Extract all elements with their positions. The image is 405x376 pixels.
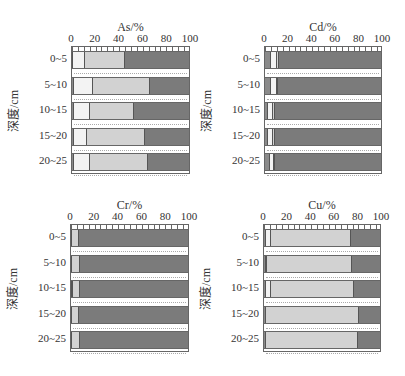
row-separator — [266, 353, 378, 354]
y-axis-label: 深度/cm — [4, 71, 22, 151]
stacked-bar-5~10 — [72, 77, 189, 95]
x-tick-label: 20 — [282, 32, 293, 44]
bar-segment — [278, 78, 381, 94]
plot-area — [70, 224, 189, 352]
bar-segment — [80, 256, 188, 272]
stacked-bar-5~10 — [264, 255, 380, 273]
bar-segment — [79, 230, 188, 246]
row-separator — [266, 277, 378, 278]
x-tick-label: 100 — [182, 32, 199, 44]
x-tick-label: 80 — [353, 32, 364, 44]
bar-segment — [125, 52, 189, 68]
stacked-bar-15~20 — [71, 306, 188, 324]
x-axis-tick-labels: 020406080100 — [264, 32, 382, 44]
stacked-bar-5~10 — [265, 77, 381, 95]
y-tick-label: 15~20 — [216, 129, 260, 141]
y-tick-label: 5~10 — [22, 256, 66, 268]
stacked-bar-10~15 — [72, 102, 189, 120]
bar-segment — [275, 103, 381, 119]
x-axis-tick-labels: 020406080100 — [70, 210, 189, 222]
row-separator — [267, 73, 379, 74]
bar-segment — [73, 52, 85, 68]
plot-area — [71, 46, 190, 174]
y-tick-label: 10~15 — [22, 281, 66, 293]
y-tick-label: 10~15 — [216, 103, 260, 115]
bar-segment — [80, 332, 188, 348]
row-separator — [267, 99, 379, 100]
y-tick-label: 15~20 — [215, 307, 259, 319]
bar-segment — [93, 78, 150, 94]
y-tick-label: 5~10 — [216, 78, 260, 90]
row-separator — [74, 124, 187, 125]
bar-segment — [279, 52, 381, 68]
plot-area — [264, 46, 382, 174]
stacked-bar-20~25 — [264, 331, 380, 349]
stacked-bar-20~25 — [71, 331, 188, 349]
bar-segment — [134, 103, 189, 119]
row-separator — [74, 99, 187, 100]
x-tick-label: 80 — [161, 32, 172, 44]
x-axis-tick-labels: 020406080100 — [263, 210, 381, 222]
y-tick-label: 0~5 — [23, 52, 67, 64]
row-separator — [73, 328, 186, 329]
y-tick-label: 5~10 — [215, 256, 259, 268]
x-tick-label: 20 — [88, 210, 99, 222]
bar-segment — [72, 332, 80, 348]
y-tick-label: 0~5 — [215, 230, 259, 242]
y-tick-label: 0~5 — [216, 52, 260, 64]
stacked-bar-10~15 — [71, 280, 188, 298]
row-separator — [73, 353, 186, 354]
bar-segment — [72, 230, 79, 246]
bar-segment — [74, 154, 89, 170]
bar-segment — [80, 281, 188, 297]
bar-segment — [354, 281, 380, 297]
y-tick-label: 10~15 — [23, 103, 67, 115]
bar-segment — [73, 281, 80, 297]
bar-segment — [271, 230, 351, 246]
x-tick-label: 100 — [373, 210, 390, 222]
bar-segment — [271, 281, 355, 297]
x-tick-label: 80 — [160, 210, 171, 222]
bar-segment — [359, 307, 380, 323]
row-separator — [266, 251, 378, 252]
plot-area — [263, 224, 381, 352]
row-separator — [73, 277, 186, 278]
row-separator — [73, 302, 186, 303]
stacked-bar-0~5 — [264, 229, 380, 247]
x-tick-label: 60 — [329, 32, 340, 44]
bar-segment — [266, 307, 359, 323]
y-tick-label: 15~20 — [23, 129, 67, 141]
y-axis-label: 深度/cm — [196, 249, 214, 329]
x-tick-label: 80 — [352, 210, 363, 222]
x-tick-label: 40 — [112, 210, 123, 222]
y-axis-label: 深度/cm — [3, 249, 21, 329]
stacked-bar-0~5 — [265, 51, 381, 69]
y-tick-label: 10~15 — [215, 281, 259, 293]
bar-segment — [85, 52, 125, 68]
row-separator — [74, 150, 187, 151]
bar-segment — [275, 154, 381, 170]
bar-segment — [90, 103, 134, 119]
bar-segment — [90, 154, 149, 170]
row-separator — [267, 150, 379, 151]
bar-segment — [352, 256, 380, 272]
bar-segment — [145, 129, 189, 145]
bar-segment — [74, 103, 89, 119]
x-axis-tick-labels: 020406080100 — [71, 32, 190, 44]
row-separator — [74, 175, 187, 176]
y-tick-label: 15~20 — [22, 307, 66, 319]
stacked-bar-0~5 — [71, 229, 188, 247]
row-separator — [74, 73, 187, 74]
x-tick-label: 100 — [181, 210, 198, 222]
x-tick-label: 60 — [137, 32, 148, 44]
x-tick-label: 60 — [136, 210, 147, 222]
row-separator — [266, 302, 378, 303]
x-tick-label: 0 — [261, 32, 267, 44]
x-tick-label: 100 — [374, 32, 391, 44]
bar-segment — [351, 230, 380, 246]
y-tick-label: 20~25 — [22, 332, 66, 344]
bar-segment — [275, 129, 381, 145]
row-separator — [266, 328, 378, 329]
stacked-bar-20~25 — [265, 153, 381, 171]
bar-segment — [74, 129, 87, 145]
